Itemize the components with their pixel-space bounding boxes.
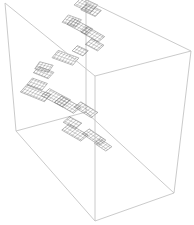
mesh-patch (85, 39, 104, 51)
box-edge (16, 131, 95, 221)
box-edge (174, 51, 191, 193)
box-edge (95, 51, 191, 76)
box-edge (5, 3, 16, 131)
plot-canvas (0, 0, 194, 225)
box-edge-hidden (86, 112, 174, 193)
box-edge (86, 0, 191, 51)
plot-3d (0, 0, 194, 225)
box-edge (95, 193, 174, 221)
